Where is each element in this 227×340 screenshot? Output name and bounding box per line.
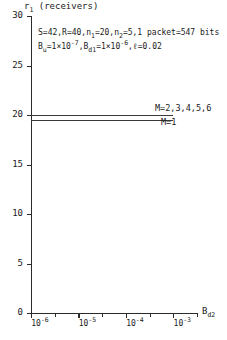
parameter-annotation: S=42,R=40,n1=20,n2=5,1 packet=547 bitsBu…	[38, 26, 219, 54]
x-tick-minor	[102, 313, 103, 317]
x-tick-minor	[150, 313, 151, 317]
x-tick-major	[173, 313, 174, 318]
x-axis-title-subscript: d2	[207, 311, 215, 319]
y-tick-label: 20	[12, 109, 23, 120]
x-tick-label: 10-6	[31, 319, 48, 328]
y-tick-label: 10	[12, 208, 23, 219]
x-axis-title: Bd2	[202, 306, 215, 317]
curve-0	[31, 115, 173, 116]
params-line-1: S=42,R=40,n1=20,n2=5,1 packet=547 bits	[38, 26, 219, 40]
x-tick-label: 10-5	[79, 319, 96, 328]
params-line-2: Bu=1×10-7,Bd1=1×10-6,ℓ=0.02	[38, 40, 219, 54]
y-tick-label: 15	[12, 159, 23, 170]
series-label-m1: M=1	[161, 117, 176, 128]
y-tick: 15	[27, 165, 32, 166]
y-tick: 5	[27, 264, 32, 265]
chart-figure: r1 (receivers) 302520151050 10-610-510-4…	[0, 0, 227, 340]
y-axis-title-subscript: 1	[29, 6, 33, 14]
x-axis-line	[31, 313, 197, 314]
y-axis-title: r1 (receivers)	[24, 1, 98, 12]
x-tick-major	[126, 313, 127, 318]
x-tick-major	[78, 313, 79, 318]
curve-1	[31, 120, 173, 121]
x-tick-minor	[55, 313, 56, 317]
y-tick-label: 0	[18, 307, 23, 318]
y-tick: 25	[27, 66, 32, 67]
y-tick-label: 25	[12, 60, 23, 71]
series-label-m2to6: M=2,3,4,5,6	[155, 103, 211, 114]
y-tick-label: 5	[18, 258, 23, 269]
x-tick-minor	[197, 313, 198, 317]
y-tick-label: 30	[12, 10, 23, 21]
x-tick-label: 10-3	[174, 319, 191, 328]
y-tick: 30	[27, 16, 32, 17]
x-tick-major	[31, 313, 32, 318]
x-tick-label: 10-4	[126, 319, 143, 328]
y-tick: 10	[27, 214, 32, 215]
